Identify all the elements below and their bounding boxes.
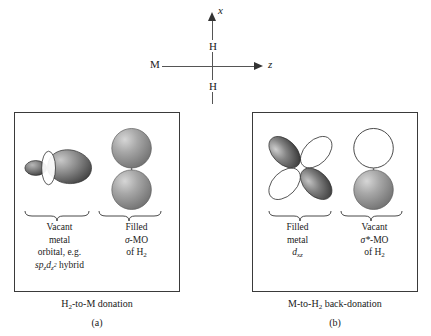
z-axis-arrowhead-icon — [254, 62, 263, 70]
sigma-star-mo-sphere-top-empty — [354, 128, 394, 168]
d-orbital-lobe-upper-left-shaded — [263, 131, 306, 174]
atom-label-hydrogen-top: H — [207, 40, 219, 52]
axis-label-x: x — [218, 4, 223, 16]
brace-left-group-b — [269, 211, 331, 221]
axis-label-z: z — [268, 58, 272, 70]
d-orbital-lobe-lower-right-shaded — [295, 162, 338, 205]
caption-a-letter: (a) — [0, 315, 197, 330]
sigma-mo-sphere-top — [112, 128, 152, 168]
caption-b-letter: (b) — [235, 315, 431, 330]
caption-a-text: H2-to-M donation — [61, 298, 133, 309]
panel-a-labels: Vacant metal orbital, e.g. spzdz2 hybrid… — [21, 221, 175, 274]
hybrid-orbital-nodal-ring — [42, 151, 56, 185]
sigma-star-mo-notation: σ*-MO — [336, 234, 413, 247]
brace-left-group-a — [25, 211, 89, 221]
panel-h2-to-m-donation: Vacant metal orbital, e.g. spzdz2 hybrid… — [14, 112, 180, 292]
dxz-orbital-notation: dxz — [259, 246, 336, 262]
axis-diagram: x z M H H — [150, 4, 290, 104]
atom-label-hydrogen-bottom: H — [207, 80, 219, 92]
d-orbital-lobe-upper-right-empty — [295, 131, 338, 174]
label-vacant-metal-hybrid: Vacant metal orbital, e.g. spzdz2 hybrid — [21, 221, 98, 274]
brace-right-group-a — [99, 211, 161, 221]
atom-label-metal: M — [150, 58, 160, 70]
sigma-mo-sphere-bottom — [112, 170, 152, 210]
panel-m-to-h2-back-donation: Filled metal dxz Vacant σ*-MO of H2 — [252, 112, 418, 292]
sigma-mo-notation: σ-MO — [98, 234, 175, 247]
hybrid-orbital-notation: spzdz2 hybrid — [21, 259, 98, 275]
panel-a-orbital-artwork — [15, 121, 179, 213]
caption-panel-a: H2-to-M donation (a) — [0, 296, 197, 330]
z-axis-line — [162, 66, 260, 67]
panel-b-braces — [261, 209, 411, 221]
label-vacant-sigma-star-mo: Vacant σ*-MO of H2 — [336, 221, 413, 262]
panel-b-orbital-artwork — [253, 121, 417, 213]
x-axis-arrowhead-icon — [208, 12, 216, 21]
orbital-interaction-figure: x z M H H — [0, 0, 431, 336]
panel-a-braces — [23, 209, 173, 221]
caption-b-text: M-to-H2 back-donation — [288, 298, 382, 309]
sigma-star-mo-sphere-bottom-shaded — [354, 170, 394, 210]
panel-b-labels: Filled metal dxz Vacant σ*-MO of H2 — [259, 221, 413, 262]
of-h2-notation: of H2 — [336, 246, 413, 262]
of-h2-notation: of H2 — [98, 246, 175, 262]
d-orbital-lobe-lower-left-empty — [263, 162, 306, 205]
label-filled-metal-dxz: Filled metal dxz — [259, 221, 336, 262]
caption-panel-b: M-to-H2 back-donation (b) — [235, 296, 431, 330]
label-filled-sigma-mo: Filled σ-MO of H2 — [98, 221, 175, 274]
brace-right-group-b — [341, 211, 402, 221]
